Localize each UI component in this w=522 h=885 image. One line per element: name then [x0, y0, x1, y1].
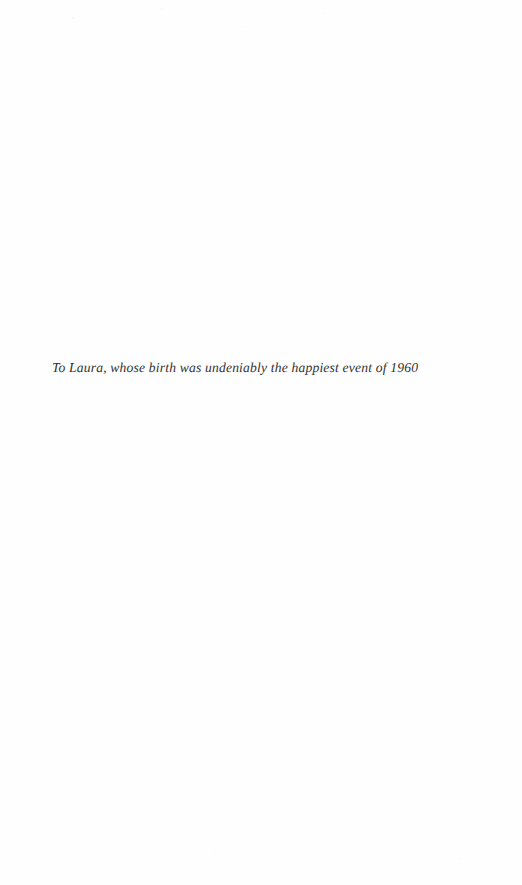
- page-surface: To Laura, whose birth was undeniably the…: [0, 0, 522, 885]
- page-content-area: To Laura, whose birth was undeniably the…: [0, 0, 522, 885]
- dedication-text: To Laura, whose birth was undeniably the…: [52, 358, 472, 378]
